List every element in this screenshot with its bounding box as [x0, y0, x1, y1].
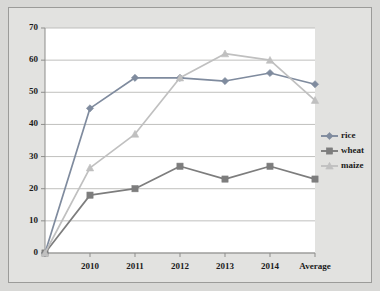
gridlines: [45, 28, 315, 253]
x-axis-tick-label: 2011: [126, 261, 144, 271]
data-point-wheat-5: [267, 163, 273, 169]
data-point-wheat-6: [312, 176, 318, 182]
y-axis-tick-label: 60: [29, 54, 39, 64]
legend-label-maize: maize: [341, 160, 364, 170]
legend-label-wheat: wheat: [341, 145, 364, 155]
y-axis-tick-labels: 010203040506070: [29, 22, 39, 257]
y-axis-tick-label: 0: [34, 247, 39, 257]
y-axis-tick-label: 70: [29, 22, 39, 32]
y-axis-tick-label: 50: [29, 86, 39, 96]
series-wheat[interactable]: [42, 163, 318, 256]
data-point-rice-5: [266, 69, 273, 76]
x-axis-tick-label: 2014: [261, 261, 280, 271]
chart-frame: 010203040506070 20102011201220132014Aver…: [0, 0, 380, 291]
data-point-wheat-2: [132, 186, 138, 192]
x-axis-tick-labels: 20102011201220132014Average: [81, 261, 331, 271]
data-point-wheat-3: [177, 163, 183, 169]
series-line-wheat: [45, 166, 315, 253]
legend-item-rice[interactable]: rice: [321, 130, 355, 140]
axes: [41, 28, 315, 257]
x-axis-tick-label: 2013: [216, 261, 235, 271]
data-point-wheat-4: [222, 176, 228, 182]
y-axis-tick-label: 20: [29, 183, 39, 193]
x-axis-tick-label: 2010: [81, 261, 100, 271]
legend-label-rice: rice: [341, 130, 355, 140]
data-series[interactable]: [41, 50, 318, 257]
y-axis-tick-label: 40: [29, 118, 39, 128]
data-point-rice-4: [221, 77, 228, 84]
line-chart[interactable]: 010203040506070 20102011201220132014Aver…: [9, 8, 373, 284]
data-point-wheat-1: [87, 192, 93, 198]
legend-item-wheat[interactable]: wheat: [321, 145, 364, 155]
series-maize[interactable]: [41, 50, 318, 256]
chart-legend[interactable]: ricewheatmaize: [321, 130, 364, 170]
chart-card: 010203040506070 20102011201220132014Aver…: [8, 7, 372, 283]
x-axis-tick-label: Average: [299, 261, 330, 271]
data-point-rice-6: [311, 81, 318, 88]
series-line-maize: [45, 54, 315, 253]
legend-marker-wheat: [326, 148, 332, 154]
legend-item-maize[interactable]: maize: [321, 160, 364, 170]
x-axis-tick-label: 2012: [171, 261, 190, 271]
y-axis-tick-label: 30: [29, 151, 39, 161]
y-axis-tick-label: 10: [29, 215, 39, 225]
legend-marker-rice: [326, 132, 333, 139]
